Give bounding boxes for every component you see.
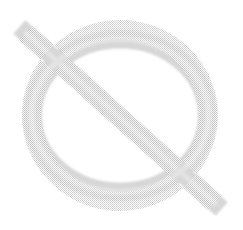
empty-set-glyph [0, 0, 243, 230]
image-canvas [0, 0, 243, 230]
